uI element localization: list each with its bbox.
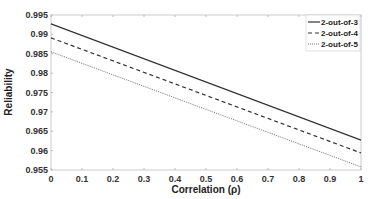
- y-tick-label: 0.995: [25, 10, 48, 20]
- legend-entry: 2-out-of-3: [321, 18, 358, 27]
- x-tick-label: 0.4: [169, 174, 182, 184]
- x-tick-label: 1: [358, 174, 363, 184]
- y-tick-label: 0.955: [25, 165, 48, 175]
- x-tick-label: 0: [48, 174, 53, 184]
- y-tick-label: 0.975: [25, 88, 48, 98]
- y-tick-label: 0.97: [30, 107, 48, 117]
- legend-entry: 2-out-of-5: [321, 40, 358, 49]
- y-tick-labels: 0.9950.990.9850.980.9750.970.9650.960.95…: [25, 10, 53, 175]
- y-tick-label: 0.98: [30, 68, 48, 78]
- y-tick-label: 0.99: [30, 29, 48, 39]
- x-tick-label: 0.8: [293, 174, 306, 184]
- x-tick-label: 0.3: [138, 174, 151, 184]
- x-tick-label: 0.7: [262, 174, 275, 184]
- x-tick-label: 0.6: [231, 174, 244, 184]
- x-tick-label: 0.9: [324, 174, 337, 184]
- y-axis-label: Reliability: [3, 68, 14, 116]
- series-line: [51, 52, 361, 167]
- x-tick-label: 0.1: [76, 174, 89, 184]
- line-chart: 0.9950.990.9850.980.9750.970.9650.960.95…: [0, 0, 380, 199]
- x-tick-label: 0.5: [200, 174, 213, 184]
- x-tick-label: 0.2: [107, 174, 120, 184]
- y-tick-label: 0.985: [25, 49, 48, 59]
- legend: 2-out-of-32-out-of-42-out-of-5: [306, 15, 360, 51]
- legend-entry: 2-out-of-4: [321, 29, 358, 38]
- y-tick-label: 0.96: [30, 146, 48, 156]
- y-tick-label: 0.965: [25, 126, 48, 136]
- series-line: [51, 38, 361, 153]
- x-axis-label: Correlation (ρ): [172, 184, 241, 195]
